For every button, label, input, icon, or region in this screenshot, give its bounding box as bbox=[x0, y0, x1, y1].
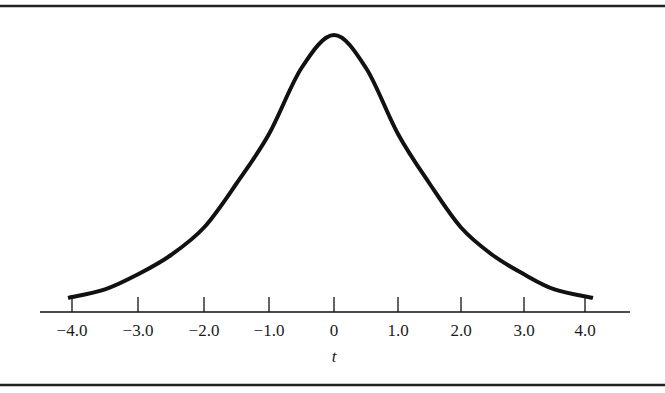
x-tick-label: −1.0 bbox=[254, 321, 285, 340]
x-tick-label: 3.0 bbox=[513, 321, 534, 340]
x-tick-label: 2.0 bbox=[450, 321, 471, 340]
x-tick-label: −2.0 bbox=[189, 321, 220, 340]
x-tick-label: 4.0 bbox=[574, 321, 595, 340]
x-tick-label: 0 bbox=[330, 321, 339, 340]
t-distribution-chart: −4.0−3.0−2.0−1.001.02.03.04.0 t bbox=[0, 0, 665, 393]
x-axis-tick-labels: −4.0−3.0−2.0−1.001.02.03.04.0 bbox=[57, 321, 596, 340]
density-curve bbox=[68, 35, 593, 298]
x-tick-label: −4.0 bbox=[57, 321, 88, 340]
x-tick-label: 1.0 bbox=[387, 321, 408, 340]
x-axis-label: t bbox=[332, 347, 338, 366]
x-axis-ticks bbox=[72, 297, 585, 312]
x-tick-label: −3.0 bbox=[123, 321, 154, 340]
